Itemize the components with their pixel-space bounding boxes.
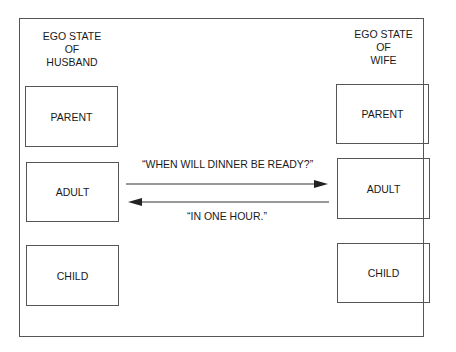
transaction-arrows [0,0,456,352]
arrow-left-icon [128,198,329,206]
answer-label: “IN ONE HOUR.” [187,210,267,222]
question-label: “WHEN WILL DINNER BE READY?” [142,158,313,170]
arrow-right-icon [126,180,328,188]
